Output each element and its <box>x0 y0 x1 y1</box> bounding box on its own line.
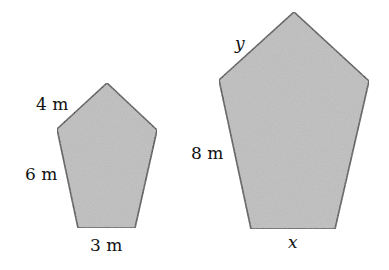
large-left-side-label: 8 m <box>191 143 223 163</box>
large-bottom-side-label: x <box>288 232 298 252</box>
similar-pentagons-diagram: 4 m 6 m 3 m y 8 m x <box>0 0 389 270</box>
small-pentagon <box>57 83 157 228</box>
small-top-left-side-label: 4 m <box>36 94 68 114</box>
large-top-left-side-label: y <box>234 33 245 53</box>
small-left-side-label: 6 m <box>25 164 57 184</box>
small-bottom-side-label: 3 m <box>90 235 122 255</box>
